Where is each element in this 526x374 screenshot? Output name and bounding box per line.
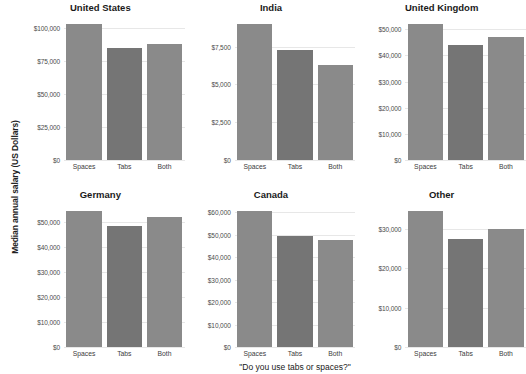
y-tick-label: $10,000 [379, 304, 402, 311]
facet-panel: Germany$0$10,000$20,000$30,000$40,000$50… [16, 187, 185, 374]
x-tick-label: Spaces [405, 347, 445, 361]
bar[interactable] [237, 24, 272, 160]
bar[interactable] [488, 37, 523, 160]
x-tick-label: Both [315, 160, 355, 174]
bar[interactable] [488, 229, 523, 347]
bar[interactable] [147, 44, 182, 160]
y-tick-column: $0$25,000$50,000$75,000$100,000 [16, 15, 64, 160]
bar[interactable] [277, 50, 312, 160]
gridline [405, 347, 526, 348]
y-tick-label: $30,000 [379, 225, 402, 232]
x-tick-label: Spaces [64, 160, 104, 174]
bar[interactable] [66, 24, 101, 160]
y-tick-label: $20,000 [379, 104, 402, 111]
y-tick-label: $50,000 [37, 219, 60, 226]
y-tick-column: $0$10,000$20,000$30,000$40,000$50,000 [16, 202, 64, 347]
y-tick-column: $0$10,000$20,000$30,000 [357, 202, 405, 347]
panel-title: Germany [16, 189, 185, 202]
bar[interactable] [408, 24, 443, 160]
bar-slot [104, 15, 144, 160]
x-tick-row: SpacesTabsBoth [235, 347, 356, 361]
bar-group [235, 15, 356, 160]
bar-slot [144, 15, 184, 160]
y-tick-label: $0 [224, 157, 231, 164]
x-tick-row: SpacesTabsBoth [64, 347, 185, 361]
panel-title: India [187, 2, 356, 15]
bar-group [235, 202, 356, 347]
y-tick-label: $0 [394, 344, 401, 351]
y-tick-label: $0 [53, 344, 60, 351]
facet-panel: India$0$2,500$5,000$7,500SpacesTabsBoth"… [187, 0, 356, 187]
facet-panel: United States$0$25,000$50,000$75,000$100… [16, 0, 185, 187]
x-tick-label: Both [486, 347, 526, 361]
facet-panel: Other$0$10,000$20,000$30,000SpacesTabsBo… [357, 187, 526, 374]
bar-slot [64, 202, 104, 347]
x-tick-label: Tabs [104, 347, 144, 361]
plot-wrapper: $0$10,000$20,000$30,000$40,000$50,000 [357, 15, 526, 160]
bar-slot [315, 15, 355, 160]
bar-slot [104, 202, 144, 347]
bar-slot [405, 202, 445, 347]
bar[interactable] [277, 236, 312, 347]
bar[interactable] [318, 65, 353, 160]
y-tick-label: $40,000 [208, 254, 231, 261]
plot-area [235, 202, 356, 347]
y-tick-label: $2,500 [211, 119, 230, 126]
panel-title: Other [357, 189, 526, 202]
plot-area [235, 15, 356, 160]
x-tick-row: SpacesTabsBoth [235, 160, 356, 174]
bar-slot [446, 15, 486, 160]
bar-slot [235, 15, 275, 160]
y-tick-label: $75,000 [37, 58, 60, 65]
bar[interactable] [448, 45, 483, 160]
y-tick-label: $50,000 [37, 91, 60, 98]
bar[interactable] [237, 211, 272, 347]
plot-wrapper: $0$2,500$5,000$7,500 [187, 15, 356, 160]
bar[interactable] [408, 211, 443, 347]
y-tick-label: $20,000 [208, 299, 231, 306]
plot-area [405, 202, 526, 347]
x-tick-label: Tabs [446, 347, 486, 361]
bar-slot [486, 15, 526, 160]
gridline [405, 160, 526, 161]
bar-slot [446, 202, 486, 347]
panel-title: United Kingdom [357, 2, 526, 15]
bar[interactable] [66, 211, 101, 347]
y-tick-label: $20,000 [37, 294, 60, 301]
x-tick-row: SpacesTabsBoth [405, 160, 526, 174]
plot-wrapper: $0$10,000$20,000$30,000$40,000$50,000$60… [187, 202, 356, 347]
bar[interactable] [107, 226, 142, 347]
x-tick-label: Both [315, 347, 355, 361]
y-tick-label: $20,000 [379, 265, 402, 272]
bar-slot [64, 15, 104, 160]
bar-group [405, 15, 526, 160]
bar-slot [235, 202, 275, 347]
bar[interactable] [448, 239, 483, 347]
x-tick-label: Tabs [104, 160, 144, 174]
bar-group [405, 202, 526, 347]
x-tick-label: Spaces [405, 160, 445, 174]
facet-panel: United Kingdom$0$10,000$20,000$30,000$40… [357, 0, 526, 187]
facet-grid: United States$0$25,000$50,000$75,000$100… [16, 0, 526, 374]
bar-slot [486, 202, 526, 347]
plot-area [405, 15, 526, 160]
y-tick-label: $40,000 [379, 52, 402, 59]
gridline [235, 347, 356, 348]
y-tick-label: $100,000 [34, 25, 60, 32]
x-tick-label: Spaces [235, 347, 275, 361]
plot-area [64, 202, 185, 347]
y-tick-column: $0$10,000$20,000$30,000$40,000$50,000 [357, 15, 405, 160]
x-tick-label: Spaces [64, 347, 104, 361]
y-tick-label: $0 [394, 157, 401, 164]
x-tick-row: SpacesTabsBoth [405, 347, 526, 361]
y-tick-label: $7,500 [211, 43, 230, 50]
y-tick-label: $60,000 [208, 209, 231, 216]
x-tick-row: SpacesTabsBoth [64, 160, 185, 174]
gridline [64, 160, 185, 161]
x-tick-label: Tabs [275, 347, 315, 361]
bar[interactable] [107, 48, 142, 160]
bar[interactable] [318, 240, 353, 347]
bar-group [64, 202, 185, 347]
bar[interactable] [147, 217, 182, 347]
y-tick-column: $0$2,500$5,000$7,500 [187, 15, 235, 160]
